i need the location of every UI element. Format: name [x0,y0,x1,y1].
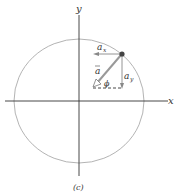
x-axis-label: x [168,95,174,106]
particle [119,51,124,56]
ay-label: a [124,71,129,81]
circular-motion-diagram: y x a x a y a ϕ (c) [0,0,175,194]
angle-phi-label: ϕ [104,79,110,88]
ax-subscript: x [103,46,107,53]
figure-caption: (c) [73,183,84,192]
ay-subscript: y [129,75,134,83]
ax-label: a [97,42,102,52]
a-vector-label: a [95,66,100,76]
y-axis-label: y [75,3,82,14]
diagram-canvas: y x a x a y a ϕ (c) [0,0,175,194]
ax-arrowhead [93,52,99,56]
